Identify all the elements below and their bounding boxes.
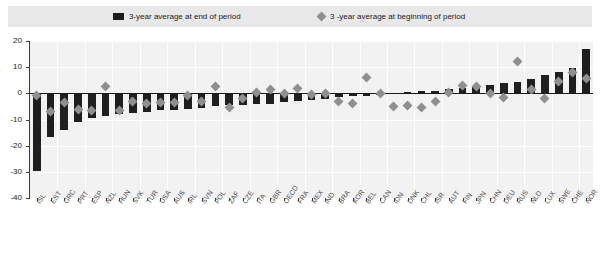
vertical-gridline [579,41,580,198]
vertical-gridline [140,41,141,198]
gridline [30,67,593,68]
vertical-gridline [57,41,58,198]
marker-dnk [403,100,413,110]
vertical-gridline [195,41,196,198]
plot-area [30,41,593,198]
vertical-gridline [222,41,223,198]
gridline [30,146,593,147]
vertical-gridline [442,41,443,198]
y-axis-tick [26,41,30,42]
marker-pol [210,82,220,92]
gridline [30,120,593,121]
marker-nzl [101,82,111,92]
bar-rus [514,82,522,94]
vertical-gridline [552,41,553,198]
bar-isl [33,93,41,170]
marker-fra [293,83,303,93]
bar-fra [294,93,302,101]
y-axis-tick-label: -20 [10,141,22,150]
y-axis-tick-label: -30 [10,167,22,176]
marker-rus [513,57,523,67]
vertical-gridline [250,41,251,198]
bar-nor [582,49,590,93]
vertical-gridline [497,41,498,198]
x-axis-tick-labels: ISLESTGRCPRTESPNZLHUNSVKTURUSAAUSIRLSVNP… [30,200,600,259]
chart-legend: 3-year average at end of period 3 -year … [8,6,592,27]
y-axis-tick-label: 0 [18,88,22,97]
marker-lux [540,94,550,104]
marker-kor [348,99,358,109]
marker-idn [389,101,399,111]
y-axis-tick-label: -40 [10,193,22,202]
vertical-gridline [387,41,388,198]
y-axis-tick [26,120,30,121]
legend-label-end-of-period: 3-year average at end of period [129,12,241,21]
vertical-gridline [469,41,470,198]
legend-label-beginning-of-period: 3 -year average at beginning of period [330,12,465,21]
legend-entry-beginning-of-period: 3 -year average at beginning of period [318,6,465,27]
marker-bra [334,96,344,106]
y-axis-tick [26,172,30,173]
vertical-gridline [85,41,86,198]
bar-gbr [266,93,274,103]
marker-isr [430,96,440,106]
vertical-gridline [524,41,525,198]
bar-nzl [102,93,110,115]
bar-swatch-icon [113,13,124,20]
bar-pol [212,93,220,106]
vertical-gridline [414,41,415,198]
y-axis-tick-label: 10 [13,62,22,71]
vertical-gridline [360,41,361,198]
vertical-gridline [112,41,113,198]
vertical-gridline [167,41,168,198]
y-axis-tick [26,146,30,147]
marker-chl [416,103,426,113]
y-axis-tick [26,198,30,199]
diamond-swatch-icon [317,12,327,22]
gridline [30,41,593,42]
y-axis-tick-label: 20 [13,36,22,45]
vertical-gridline [332,41,333,198]
marker-can [375,88,385,98]
marker-bel [361,73,371,83]
y-axis-tick-labels: 20100-10-20-30-40 [0,0,28,259]
y-axis-tick [26,67,30,68]
bar-deu [500,83,508,93]
bar-lux [541,75,549,93]
legend-entry-end-of-period: 3-year average at end of period [113,6,241,27]
vertical-gridline [277,41,278,198]
vertical-gridline [305,41,306,198]
y-axis-tick-label: -10 [10,115,22,124]
gridline [30,172,593,173]
